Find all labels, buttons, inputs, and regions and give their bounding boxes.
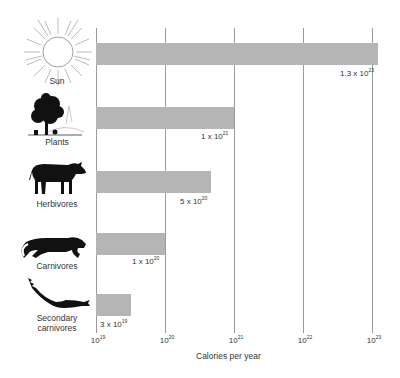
value-label-secondary-carnivores: 3 x 1019 (100, 318, 127, 329)
category-label-secondary-carnivores: Secondary carnivores (12, 313, 102, 333)
value-mantissa: 1 x 10 (201, 132, 223, 141)
value-mantissa: 3 x 10 (100, 320, 122, 329)
x-tick-1e22: 1022 (298, 334, 312, 345)
value-exponent: 20 (154, 255, 160, 261)
value-exponent: 23 (368, 67, 374, 73)
gridline-1e21 (234, 28, 235, 333)
carnivore-panther-icon (18, 232, 88, 260)
x-tick-1e21: 1021 (229, 334, 243, 345)
value-label-herbivores: 5 x 1020 (180, 195, 207, 206)
x-tick-1e20: 1020 (160, 334, 174, 345)
value-mantissa: 1.3 x 10 (340, 69, 368, 78)
plants-icon (24, 92, 86, 136)
energy-pyramid-chart: 1.3 x 1023 1 x 1021 5 x 1020 1 x 1020 3 … (0, 0, 400, 378)
value-mantissa: 1 x 10 (132, 257, 154, 266)
category-label-carnivores: Carnivores (12, 261, 102, 271)
value-exponent: 20 (202, 195, 208, 201)
x-axis-label: Calories per year (196, 351, 261, 361)
bar-herbivores (96, 171, 211, 193)
secondary-carnivore-bird-icon (26, 276, 92, 310)
category-label-plants: Plants (12, 137, 102, 147)
x-tick-1e23: 1023 (367, 334, 381, 345)
herbivore-cow-icon (28, 160, 88, 196)
category-label-line-1: Secondary (37, 313, 78, 323)
value-exponent: 21 (223, 130, 229, 136)
value-label-sun: 1.3 x 1023 (340, 67, 374, 78)
value-label-carnivores: 1 x 1020 (132, 255, 159, 266)
x-tick-1e19: 1019 (91, 334, 105, 345)
bar-sun (96, 43, 378, 65)
value-label-plants: 1 x 1021 (201, 130, 228, 141)
value-mantissa: 5 x 10 (180, 197, 202, 206)
bar-carnivores (96, 233, 165, 255)
bar-plants (96, 107, 234, 129)
gridline-1e22 (303, 28, 304, 333)
category-label-sun: Sun (12, 76, 102, 86)
category-label-line-2: carnivores (37, 323, 76, 333)
category-label-herbivores: Herbivores (12, 199, 102, 209)
value-exponent: 19 (122, 318, 128, 324)
